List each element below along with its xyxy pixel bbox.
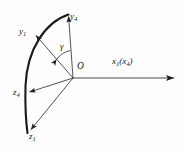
label-angle-gamma: γ — [60, 42, 64, 51]
angle-arc-gamma — [57, 51, 71, 60]
vector-diagram-figure: y4 y1 z4 z1 O γ x1(x4) — [0, 0, 186, 154]
label-y1: y1 — [19, 27, 26, 36]
label-y4: y4 — [70, 12, 77, 21]
label-z1: z1 — [29, 132, 36, 141]
label-axis-x1-x4: x1(x4) — [112, 57, 133, 66]
vector-z1 — [31, 78, 73, 130]
vector-z4 — [30, 78, 74, 92]
vector-y1 — [36, 36, 73, 79]
diagram-canvas — [0, 0, 186, 154]
vector-y4 — [69, 17, 73, 79]
rotation-arc — [25, 15, 68, 134]
label-z4: z4 — [13, 88, 20, 97]
label-origin: O — [77, 62, 84, 72]
